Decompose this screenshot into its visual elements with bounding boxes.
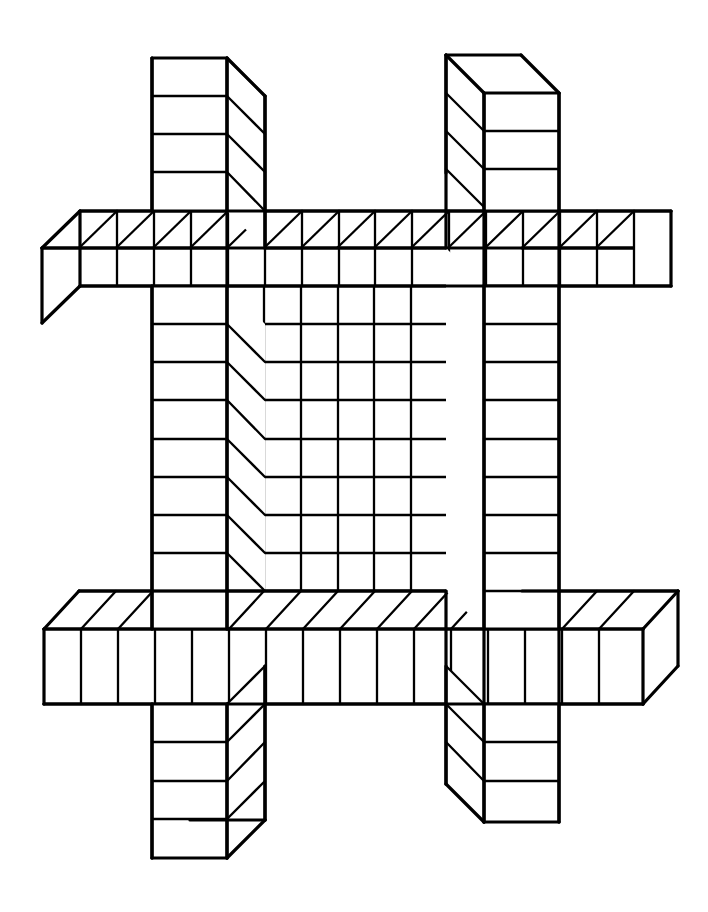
lower-horizontal-beam	[44, 591, 678, 704]
right-beam-middle	[446, 248, 559, 629]
left-beam-middle	[152, 286, 227, 629]
figure-canvas	[0, 0, 708, 912]
right-beam-top-stub	[446, 55, 559, 211]
right-vertical-beam	[446, 55, 559, 822]
central-grid-panel	[227, 286, 484, 629]
impossible-lattice-drawing	[0, 0, 708, 912]
center-left-inner-wall	[227, 286, 265, 629]
